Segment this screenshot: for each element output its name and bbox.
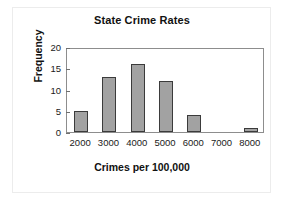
y-axis-tick-mark — [66, 133, 70, 134]
bar — [102, 77, 116, 132]
y-axis-tick-labels: 20151050 — [42, 48, 61, 133]
bar — [244, 128, 258, 132]
bars-layer — [67, 49, 263, 132]
x-axis-tick-label: 6000 — [178, 137, 208, 148]
y-axis-tick-mark — [66, 48, 70, 49]
x-axis-tick-label: 8000 — [235, 137, 265, 148]
y-axis-tick-label: 20 — [43, 43, 61, 53]
y-axis-tick-label: 0 — [43, 128, 61, 138]
y-axis-tick-mark — [66, 91, 70, 92]
bar — [187, 115, 201, 132]
y-axis-tick-label: 10 — [43, 86, 61, 96]
x-axis-tick-labels: 2000300040005000600070008000 — [66, 137, 264, 149]
x-axis-tick-label: 7000 — [207, 137, 237, 148]
chart-card: State Crime Rates Frequency 20151050 200… — [0, 0, 284, 204]
x-axis-tick-label: 3000 — [93, 137, 123, 148]
x-axis-tick-label: 4000 — [122, 137, 152, 148]
bar — [131, 64, 145, 132]
bar — [74, 111, 88, 132]
x-axis-tick-label: 5000 — [150, 137, 180, 148]
x-axis-title: Crimes per 100,000 — [0, 161, 284, 173]
y-axis-tick-mark — [66, 69, 70, 70]
bar — [159, 81, 173, 132]
y-axis-tick-label: 15 — [43, 64, 61, 74]
y-axis-tick-label: 5 — [43, 107, 61, 117]
y-axis-tick-mark — [66, 112, 70, 113]
plot-area — [66, 48, 264, 133]
x-axis-tick-label: 2000 — [65, 137, 95, 148]
